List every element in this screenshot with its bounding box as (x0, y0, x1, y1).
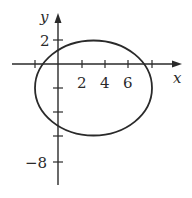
y-axis-arrow-icon (55, 13, 62, 23)
y-tick-label-2: 2 (40, 32, 50, 50)
ellipse-graph: y x 2 −8 2 4 6 (0, 0, 192, 198)
x-tick-label-6: 6 (123, 74, 133, 92)
ellipse-curve (35, 41, 152, 136)
x-axis-arrow-icon (172, 61, 182, 68)
y-tick-label-neg8: −8 (25, 154, 47, 172)
x-tick-label-4: 4 (100, 74, 110, 92)
x-tick-label-2: 2 (77, 74, 87, 92)
x-axis-label: x (173, 69, 182, 87)
y-axis-label: y (39, 8, 49, 26)
